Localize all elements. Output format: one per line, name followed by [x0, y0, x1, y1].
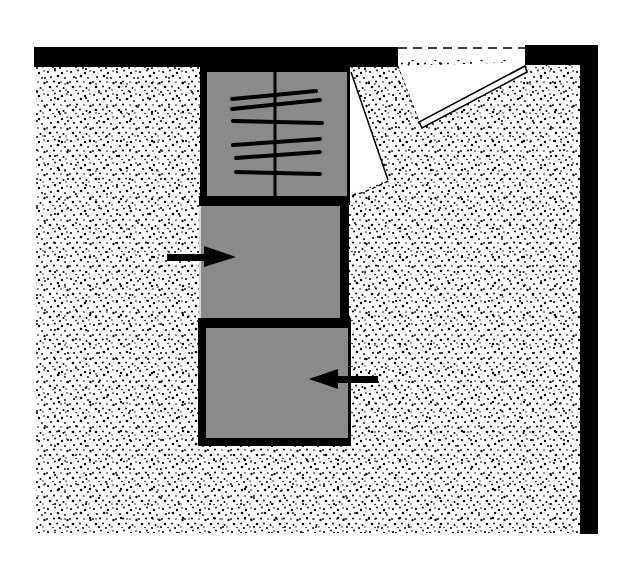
- hanger: [233, 121, 322, 123]
- hanger: [236, 172, 320, 174]
- wardrobe: [200, 60, 350, 205]
- floor-plan: [0, 0, 623, 565]
- right-wall: [580, 45, 598, 534]
